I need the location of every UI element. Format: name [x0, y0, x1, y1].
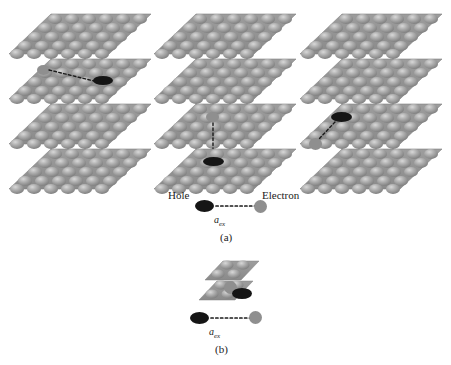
exciton-legend-link-a — [215, 201, 257, 213]
hole-legend-marker — [195, 200, 214, 212]
electron-particle-middle-column — [206, 112, 219, 122]
exciton-radius-subscript-b: ex — [214, 332, 220, 340]
electron-legend-marker-b — [249, 311, 262, 324]
exciton-layered-material-figure: Hole Electron aex (a) aex (b) — [0, 0, 451, 365]
hole-legend-label: Hole — [168, 190, 189, 201]
hole-particle-panel-b — [232, 288, 252, 299]
electron-legend-label: Electron — [262, 190, 299, 201]
exciton-radius-label-a: aex — [214, 215, 225, 228]
electron-legend-marker — [254, 200, 267, 213]
exciton-radius-subscript-a: ex — [219, 220, 225, 228]
lattice-sheet-right-layer-4 — [296, 145, 446, 205]
hole-particle-middle-column — [203, 157, 224, 166]
hole-legend-marker-b — [190, 312, 209, 324]
panel-label-b: (b) — [215, 344, 228, 355]
lattice-sheet-left-layer-4 — [5, 145, 155, 205]
exciton-link-left-column — [48, 68, 98, 84]
panel-label-a: (a) — [220, 232, 232, 243]
exciton-legend-link-b — [210, 313, 252, 325]
hole-particle-left-column — [93, 76, 113, 85]
exciton-radius-label-b: aex — [209, 327, 220, 340]
